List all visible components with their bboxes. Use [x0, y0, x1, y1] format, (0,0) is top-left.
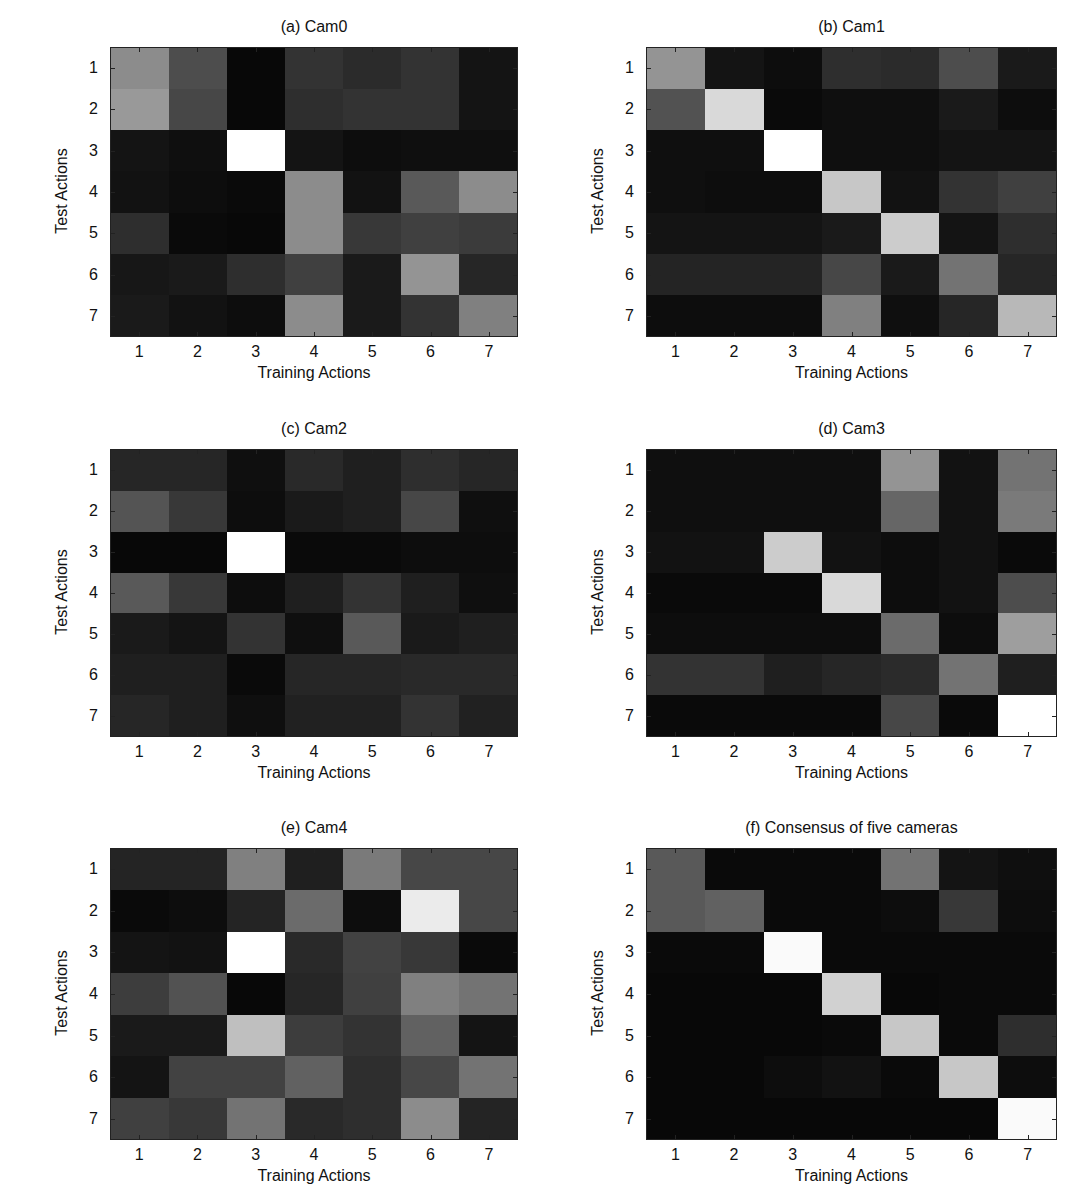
heatmap-cell [111, 849, 169, 890]
heatmap-cell [705, 1015, 763, 1056]
heatmap-cell [285, 213, 343, 254]
heatmap-cell [822, 213, 880, 254]
x-tick-mark [734, 332, 735, 336]
heatmap-cell [998, 89, 1056, 130]
x-tick-mark [256, 450, 257, 454]
heatmap-cell [822, 48, 880, 89]
y-tick-mark [111, 716, 115, 717]
y-tick-mark [647, 634, 651, 635]
x-tick-label: 7 [1018, 1146, 1038, 1164]
heatmap-cell [459, 491, 517, 532]
y-tick-mark [513, 233, 517, 234]
y-tick-mark [1052, 675, 1056, 676]
x-tick-label: 6 [959, 1146, 979, 1164]
x-tick-mark [372, 450, 373, 454]
y-tick-mark [1052, 470, 1056, 471]
heatmap-cell [111, 171, 169, 212]
panel-title: (c) Cam2 [110, 420, 518, 438]
y-tick-label: 2 [78, 100, 98, 118]
y-tick-mark [1052, 994, 1056, 995]
x-tick-label: 6 [959, 343, 979, 361]
heatmap-cell [227, 1056, 285, 1097]
heatmap-cell [169, 695, 227, 736]
x-tick-label: 7 [479, 743, 499, 761]
heatmap-cell [998, 613, 1056, 654]
heatmap-cell [111, 1098, 169, 1139]
x-tick-mark [793, 332, 794, 336]
x-tick-mark [431, 48, 432, 52]
heatmap-cell [881, 213, 939, 254]
heatmap-cell [764, 573, 822, 614]
heatmap-cell [169, 450, 227, 491]
x-tick-label: 2 [724, 743, 744, 761]
y-tick-label: 5 [614, 1027, 634, 1045]
y-tick-mark [513, 634, 517, 635]
x-tick-label: 1 [665, 743, 685, 761]
x-tick-mark [372, 1135, 373, 1139]
heatmap-cell [285, 171, 343, 212]
y-tick-label: 4 [614, 183, 634, 201]
x-tick-mark [139, 332, 140, 336]
heatmap-cell [881, 654, 939, 695]
x-axis-label: Training Actions [110, 1167, 518, 1185]
x-tick-mark [1028, 1135, 1029, 1139]
heatmap-grid [646, 47, 1057, 337]
heatmap-cell [764, 450, 822, 491]
x-tick-mark [1028, 450, 1029, 454]
heatmap-cell [705, 932, 763, 973]
y-tick-mark [1052, 1077, 1056, 1078]
y-tick-mark [1052, 593, 1056, 594]
y-tick-mark [111, 1036, 115, 1037]
y-axis-label: Test Actions [589, 923, 607, 1063]
heatmap-cell [343, 254, 401, 295]
heatmap-cell [285, 654, 343, 695]
x-tick-mark [734, 450, 735, 454]
heatmap-cell [227, 89, 285, 130]
heatmap-cell [285, 973, 343, 1014]
heatmap-cell [227, 254, 285, 295]
heatmap-cell [647, 130, 705, 171]
heatmap-cell [881, 450, 939, 491]
heatmap-cell [764, 254, 822, 295]
heatmap-cell [169, 573, 227, 614]
heatmap-cell [881, 613, 939, 654]
x-tick-mark [197, 450, 198, 454]
x-tick-label: 1 [129, 743, 149, 761]
heatmap-cell [401, 573, 459, 614]
y-tick-label: 3 [78, 943, 98, 961]
heatmap-cell [881, 1056, 939, 1097]
heatmap-cell [285, 254, 343, 295]
heatmap-cell [647, 450, 705, 491]
heatmap-cell [998, 890, 1056, 931]
heatmap-cell [822, 532, 880, 573]
heatmap-cell [822, 295, 880, 336]
panel-title: (e) Cam4 [110, 819, 518, 837]
heatmap-cell [285, 932, 343, 973]
heatmap-grid [110, 449, 518, 737]
y-tick-label: 7 [614, 307, 634, 325]
heatmap-cell [939, 932, 997, 973]
heatmap-cell [822, 932, 880, 973]
x-tick-mark [675, 732, 676, 736]
heatmap-cell [111, 1056, 169, 1097]
x-tick-mark [852, 1135, 853, 1139]
heatmap-cell [169, 254, 227, 295]
y-tick-mark [111, 994, 115, 995]
y-tick-mark [1052, 192, 1056, 193]
y-tick-mark [111, 109, 115, 110]
heatmap-cell [111, 573, 169, 614]
heatmap-cell [227, 849, 285, 890]
heatmap-cell [111, 48, 169, 89]
heatmap-cell [881, 130, 939, 171]
x-tick-label: 5 [900, 343, 920, 361]
heatmap-cell [459, 89, 517, 130]
heatmap-cell [881, 695, 939, 736]
heatmap-cell [285, 849, 343, 890]
y-tick-label: 4 [78, 183, 98, 201]
heatmap-cell [647, 613, 705, 654]
heatmap-cell [939, 849, 997, 890]
heatmap-cell [459, 295, 517, 336]
x-tick-label: 7 [1018, 343, 1038, 361]
y-tick-label: 6 [614, 1068, 634, 1086]
heatmap-cell [169, 973, 227, 1014]
